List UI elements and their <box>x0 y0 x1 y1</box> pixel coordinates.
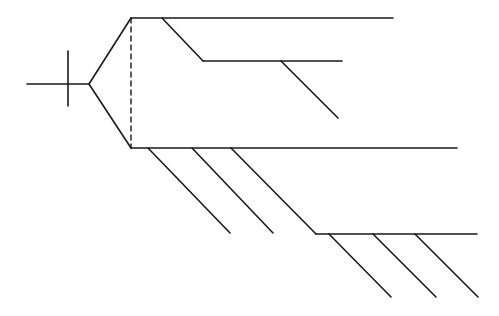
upper-clade <box>131 18 393 118</box>
fork-lower <box>89 84 131 148</box>
lower-diagonal-2 <box>192 148 273 233</box>
lower-diagonal-1 <box>148 148 230 233</box>
upper-branch-diagonal <box>162 18 203 61</box>
upper-sub-diagonal <box>281 61 338 118</box>
lower-diagonal-3 <box>231 148 316 234</box>
tree-diagram <box>0 0 499 316</box>
lower-sub-diagonal-3 <box>415 234 478 297</box>
root-group <box>27 18 131 148</box>
fork-upper <box>89 18 131 84</box>
lower-clade <box>131 148 478 297</box>
